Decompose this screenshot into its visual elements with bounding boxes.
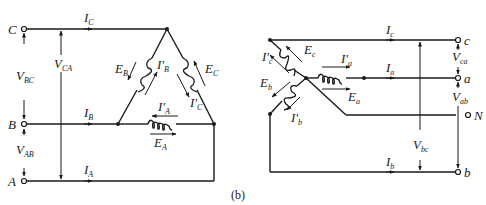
- wye-connection: c a N b Ic Ia Ib Vca Vab Vbc Ea Eb Ec I'…: [259, 22, 484, 180]
- label-EA: EA: [153, 135, 167, 152]
- delta-connection: C B A IC IB IA VBC VCA VAB EA EB EC I'A …: [7, 10, 219, 189]
- label-Ipb: I'b: [290, 110, 302, 127]
- label-terminal-b: b: [464, 165, 471, 180]
- label-Ib: Ib: [385, 154, 394, 171]
- label-terminal-A: A: [7, 174, 16, 189]
- terminal-N: [466, 113, 471, 118]
- label-terminal-a: a: [464, 71, 471, 86]
- node-right: [212, 122, 216, 126]
- label-VAB: VAB: [16, 142, 34, 159]
- label-IpA: I'A: [157, 99, 170, 116]
- neutral-node: [304, 76, 308, 80]
- label-IpB: I'B: [156, 57, 169, 74]
- coil-a: [318, 74, 342, 84]
- label-IA: IA: [83, 162, 93, 179]
- coil-b: [138, 58, 152, 92]
- figure-caption: (b): [231, 188, 245, 202]
- label-Vca: Vca: [452, 49, 468, 66]
- coil-a: [148, 120, 172, 130]
- label-Ea: Ea: [347, 89, 360, 106]
- label-terminal-C: C: [8, 22, 17, 37]
- label-terminal-N: N: [473, 108, 484, 123]
- label-Eb: Eb: [259, 75, 272, 92]
- label-Ic: Ic: [385, 22, 394, 39]
- terminal-A: [22, 179, 27, 184]
- terminal-B: [22, 122, 27, 127]
- label-terminal-B: B: [8, 117, 16, 132]
- label-Vab: Vab: [452, 89, 468, 106]
- label-terminal-c: c: [464, 33, 470, 48]
- label-EB: EB: [114, 61, 128, 78]
- terminal-a: [456, 76, 461, 81]
- label-IC: IC: [83, 10, 94, 27]
- node-top: [165, 27, 169, 31]
- label-Ia: Ia: [385, 60, 394, 77]
- terminal-C: [22, 27, 27, 32]
- label-Ec: Ec: [303, 42, 316, 59]
- label-Ipc: I'c: [261, 49, 273, 66]
- label-VBC: VBC: [16, 68, 35, 85]
- label-VCA: VCA: [54, 56, 72, 73]
- node-left: [116, 122, 120, 126]
- circuit-svg: C B A IC IB IA VBC VCA VAB EA EB EC I'A …: [0, 0, 486, 205]
- label-Vbc: Vbc: [413, 137, 429, 154]
- terminal-b: [456, 170, 461, 175]
- terminal-c: [456, 38, 461, 43]
- label-EC: EC: [204, 61, 219, 78]
- three-phase-diagram: C B A IC IB IA VBC VCA VAB EA EB EC I'A …: [0, 0, 486, 205]
- label-IB: IB: [83, 105, 93, 122]
- label-Ipa: I'a: [340, 51, 352, 68]
